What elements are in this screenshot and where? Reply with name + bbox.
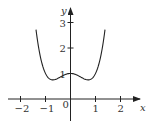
y-tick-label: 3 (60, 18, 66, 29)
y-axis-label: y (60, 5, 67, 16)
x-tick-label: −2 (15, 103, 30, 114)
y-ticks: 123 (60, 18, 74, 80)
y-tick-label: 2 (60, 43, 66, 54)
x-tick-label: 0 (63, 99, 69, 110)
x-axis-label: x (140, 102, 146, 113)
x-tick-label: −1 (40, 103, 55, 114)
x-tick-label: 2 (118, 103, 124, 114)
x-tick-label: 1 (93, 103, 99, 114)
y-tick-label: 1 (60, 69, 66, 80)
function-graph: −2−1012 123 x y (0, 0, 156, 129)
